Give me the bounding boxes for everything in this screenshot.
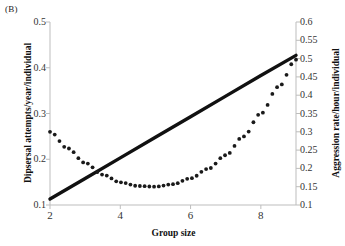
x-axis-tick-label: 4 bbox=[118, 209, 124, 221]
chart-figure: (B) Dipsersal attempts/year/individual A… bbox=[0, 0, 345, 246]
series-line-solid bbox=[50, 55, 296, 199]
x-axis-tick-label: 6 bbox=[188, 209, 194, 221]
series-layer bbox=[48, 55, 298, 199]
x-axis-tick-label: 8 bbox=[258, 209, 264, 221]
x-axis-tick-label: 2 bbox=[47, 209, 53, 221]
